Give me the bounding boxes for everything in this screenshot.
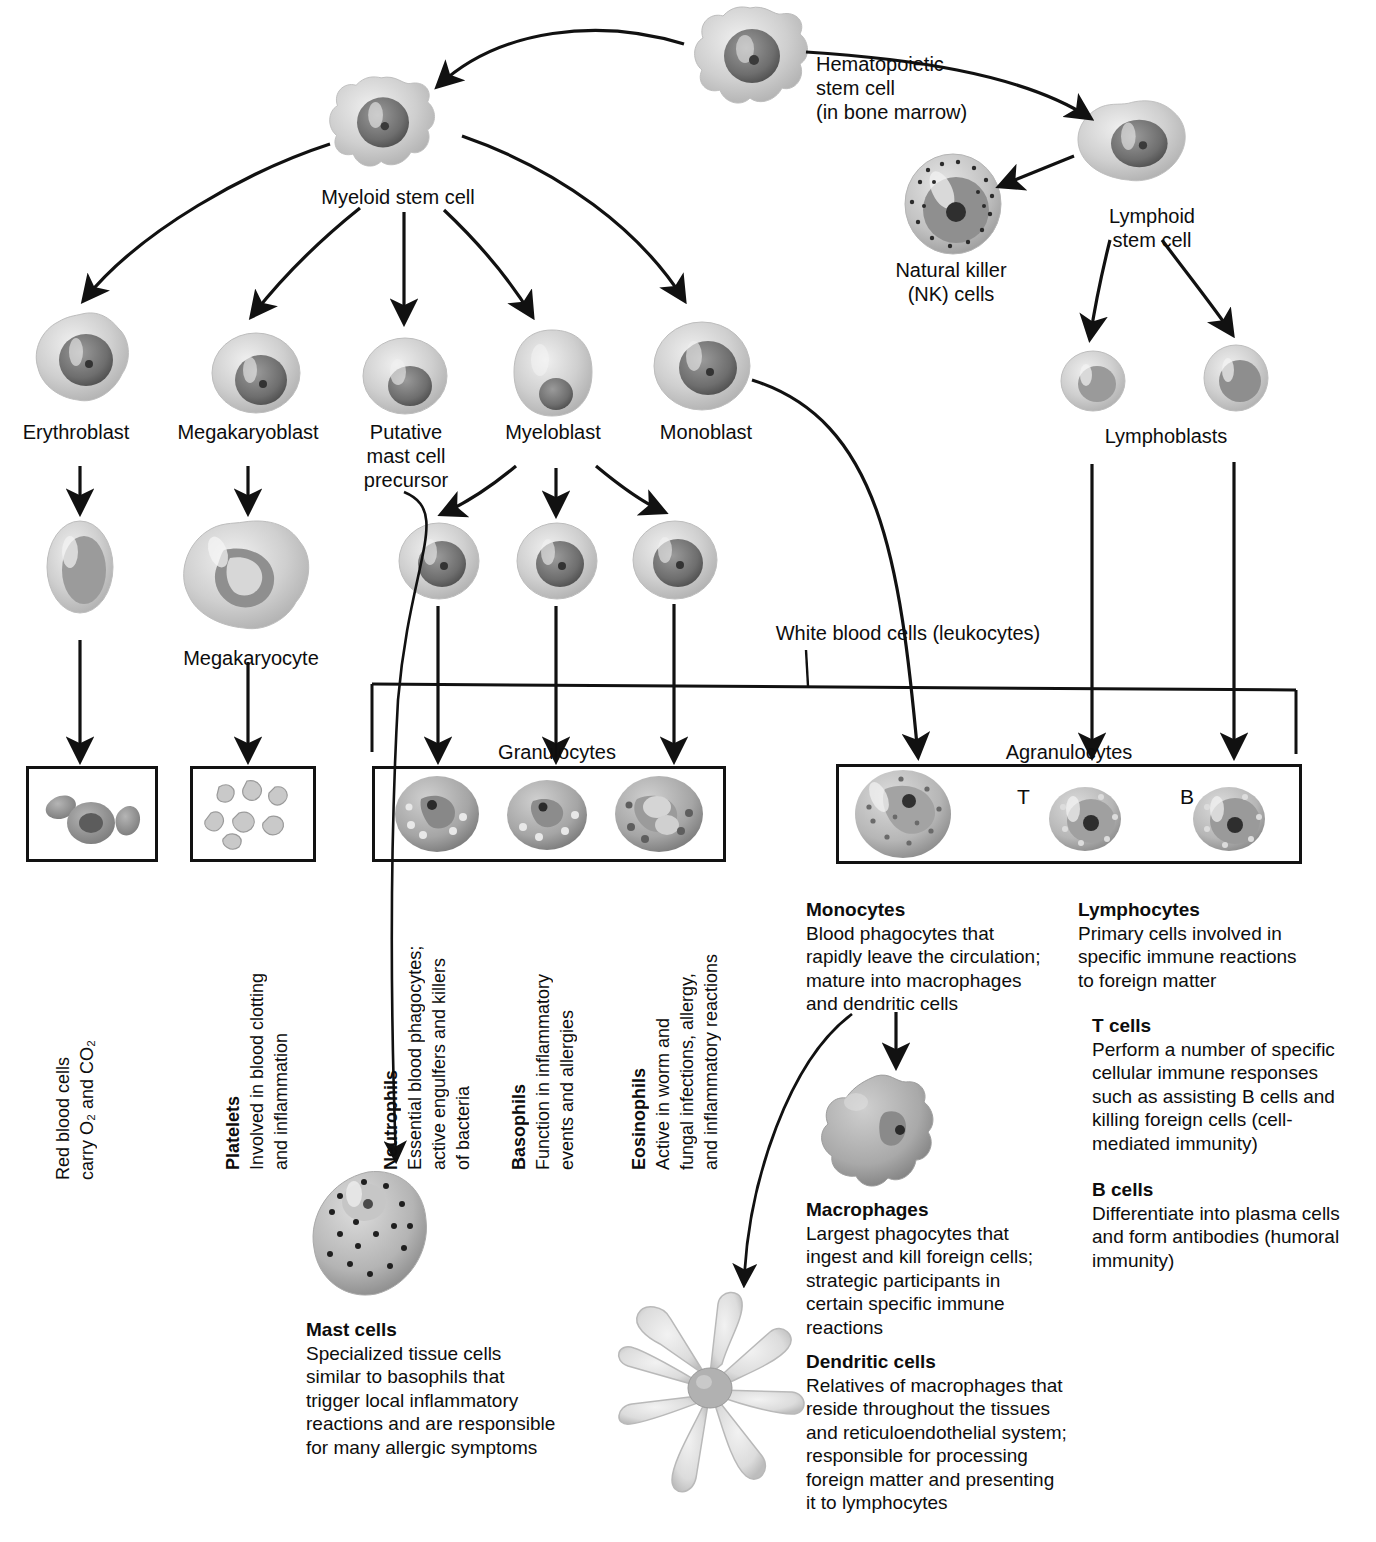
caption-red-blood-cells-2: carry O₂ and CO₂ <box>76 920 98 1180</box>
label-agranulocytes: Agranulocytes <box>1006 740 1133 764</box>
label-white-blood-cells: White blood cells (leukocytes) <box>776 621 1041 645</box>
caption-monocytes-body: Blood phagocytes that rapidly leave the … <box>806 923 1040 1015</box>
caption-macrophages-heading: Macrophages <box>806 1199 928 1220</box>
box-red-blood-cells <box>26 766 158 862</box>
caption-lymphocytes: Lymphocytes Primary cells involved in sp… <box>1078 898 1368 992</box>
caption-macrophages-body: Largest phagocytes that ingest and kill … <box>806 1223 1033 1338</box>
caption-b-cells: B cells Differentiate into plasma cells … <box>1092 1178 1376 1272</box>
cell-eosinophil-precursor <box>630 518 720 602</box>
caption-mast-cells-body: Specialized tissue cells similar to baso… <box>306 1343 555 1458</box>
cell-erythrocyte-precursor <box>42 518 118 616</box>
caption-platelets-heading: Platelets <box>222 900 244 1170</box>
caption-basophils-line2: events and allergies <box>556 900 578 1170</box>
box-agranulocytes <box>836 764 1302 864</box>
caption-monocytes-heading: Monocytes <box>806 899 905 920</box>
caption-dendritic-cells-body: Relatives of macrophages that reside thr… <box>806 1375 1067 1514</box>
cell-lymphoblast-left <box>1058 348 1128 414</box>
cell-mast-cell <box>306 1168 434 1302</box>
label-t-cell-marker: T <box>1017 785 1030 809</box>
label-monoblast: Monoblast <box>660 420 752 444</box>
caption-eosinophils-heading: Eosinophils <box>628 900 650 1170</box>
caption-neutrophils-line3: of bacteria <box>452 900 474 1170</box>
cell-putative-mast-cell-precursor <box>358 334 452 418</box>
label-granulocytes: Granulocytes <box>498 740 616 764</box>
caption-dendritic-cells: Dendritic cells Relatives of macrophages… <box>806 1350 1126 1515</box>
caption-platelets-line2: and inflammation <box>270 900 292 1170</box>
caption-basophils-heading: Basophils <box>508 900 530 1170</box>
caption-red-blood-cells: Red blood cells <box>52 920 74 1180</box>
cell-megakaryoblast <box>208 330 304 416</box>
cell-macrophage <box>816 1072 942 1198</box>
caption-mast-cells-heading: Mast cells <box>306 1319 397 1340</box>
label-lymphoid-stem-cell: Lymphoid stem cell <box>1109 204 1195 252</box>
cell-natural-killer <box>898 148 1008 260</box>
cell-hematopoietic-stem-cell <box>682 2 822 122</box>
hematopoiesis-diagram: Hematopoietic stem cell (in bone marrow)… <box>0 0 1376 1542</box>
label-natural-killer-cells: Natural killer (NK) cells <box>895 258 1006 306</box>
cell-lymphoid-stem-cell <box>1068 96 1196 202</box>
cell-myeloid-stem-cell <box>318 72 448 184</box>
box-granulocytes <box>372 766 726 862</box>
caption-red-blood-cells-line2: carry O₂ and CO₂ <box>77 1040 97 1180</box>
label-megakaryocyte: Megakaryocyte <box>183 646 319 670</box>
label-erythroblast: Erythroblast <box>23 420 130 444</box>
caption-neutrophils-line2: active engulfers and killers <box>428 900 450 1170</box>
caption-t-cells-body: Perform a number of specific cellular im… <box>1092 1039 1335 1154</box>
caption-neutrophils-heading: Neutrophils <box>380 900 402 1170</box>
caption-lymphocytes-body: Primary cells involved in specific immun… <box>1078 923 1297 991</box>
caption-red-blood-cells-line1: Red blood cells <box>53 1057 73 1180</box>
caption-eosinophils-line1: Active in worm and <box>652 900 674 1170</box>
cell-monoblast <box>650 318 754 414</box>
label-b-cell-marker: B <box>1180 785 1194 809</box>
caption-neutrophils-line1: Essential blood phagocytes; <box>404 900 426 1170</box>
caption-platelets-line1: Involved in blood clotting <box>246 900 268 1170</box>
label-myeloid-stem-cell: Myeloid stem cell <box>321 185 474 209</box>
label-hematopoietic-stem-cell: Hematopoietic stem cell (in bone marrow) <box>816 52 967 124</box>
cell-basophil-precursor <box>514 520 600 602</box>
caption-basophils-line1: Function in inflammatory <box>532 900 554 1170</box>
cell-lymphoblast-right <box>1200 342 1272 414</box>
caption-dendritic-cells-heading: Dendritic cells <box>806 1351 936 1372</box>
caption-b-cells-body: Differentiate into plasma cells and form… <box>1092 1203 1340 1271</box>
caption-lymphocytes-heading: Lymphocytes <box>1078 899 1200 920</box>
box-platelets <box>190 766 316 862</box>
caption-macrophages: Macrophages Largest phagocytes that inge… <box>806 1198 1096 1339</box>
label-megakaryoblast: Megakaryoblast <box>177 420 318 444</box>
caption-t-cells-heading: T cells <box>1092 1015 1151 1036</box>
caption-eosinophils-line2: fungal infections, allergy, <box>676 900 698 1170</box>
cell-erythroblast <box>30 310 134 408</box>
label-putative-mast-cell-precursor: Putative mast cell precursor <box>364 420 448 492</box>
cell-megakaryocyte <box>178 518 314 638</box>
cell-dendritic-cell <box>606 1280 820 1516</box>
caption-b-cells-heading: B cells <box>1092 1179 1153 1200</box>
cell-myeloblast <box>506 328 598 420</box>
caption-monocytes: Monocytes Blood phagocytes that rapidly … <box>806 898 1076 1016</box>
caption-mast-cells: Mast cells Specialized tissue cells simi… <box>306 1318 606 1459</box>
cell-neutrophil-precursor <box>396 520 482 602</box>
label-myeloblast: Myeloblast <box>505 420 601 444</box>
label-lymphoblasts: Lymphoblasts <box>1105 424 1228 448</box>
caption-eosinophils-line3: and inflammatory reactions <box>700 900 722 1170</box>
caption-t-cells: T cells Perform a number of specific cel… <box>1092 1014 1376 1155</box>
